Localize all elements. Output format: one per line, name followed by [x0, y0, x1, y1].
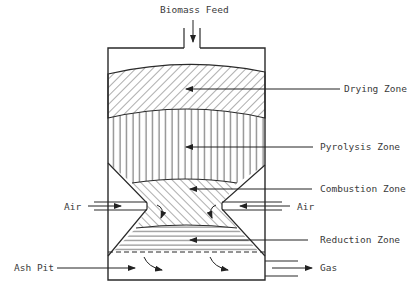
label-drying-zone: Drying Zone: [344, 83, 407, 94]
pyrolysis-zone: [108, 109, 265, 183]
label-gas: Gas: [320, 262, 337, 273]
label-combustion-zone: Combustion Zone: [320, 183, 406, 194]
label-reduction-zone: Reduction Zone: [320, 234, 400, 245]
label-biomass-feed: Biomass Feed: [160, 4, 229, 15]
label-air-right: Air: [297, 201, 314, 212]
reduction-zone: [112, 225, 260, 253]
combustion-zone: [132, 179, 237, 228]
label-ash-pit: Ash Pit: [14, 262, 54, 273]
gasifier-diagram: Biomass Feed Drying Zone Pyrolysis Zone …: [0, 0, 411, 296]
label-air-left: Air: [64, 201, 81, 212]
label-pyrolysis-zone: Pyrolysis Zone: [320, 141, 400, 152]
